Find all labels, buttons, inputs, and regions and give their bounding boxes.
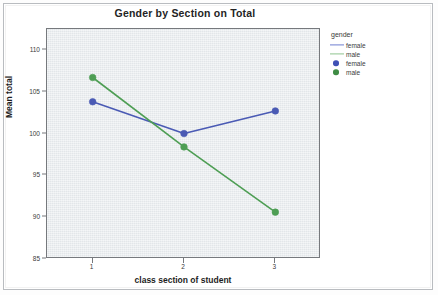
- legend-line-icon: [330, 41, 344, 49]
- y-axis-ticks: 859095100105110: [14, 28, 46, 258]
- y-tick-label: 85: [14, 255, 40, 262]
- plot-panel: [46, 28, 320, 258]
- legend-label: female: [344, 42, 366, 49]
- legend-item-male-line: male: [330, 50, 430, 58]
- data-point-female-2: [181, 130, 188, 137]
- data-point-male-2: [181, 144, 188, 151]
- legend-dot-icon: [330, 68, 344, 76]
- data-point-male-1: [89, 74, 96, 81]
- series-line-female: [93, 102, 276, 134]
- x-tick-label: 2: [173, 263, 193, 270]
- legend: gender femalemalefemalemale: [330, 31, 430, 77]
- legend-title: gender: [330, 31, 430, 38]
- y-tick-label: 95: [14, 171, 40, 178]
- y-tick-label: 90: [14, 213, 40, 220]
- y-tick-label: 110: [14, 45, 40, 52]
- y-axis-title: Mean total: [4, 62, 14, 132]
- legend-label: female: [344, 60, 366, 67]
- legend-label: male: [344, 69, 360, 76]
- legend-item-male-dot: male: [330, 68, 430, 76]
- y-tick-label: 100: [14, 129, 40, 136]
- chart-figure: Gender by Section on Total Mean total 85…: [0, 0, 438, 295]
- legend-item-female-dot: female: [330, 59, 430, 67]
- x-tick-label: 3: [264, 263, 284, 270]
- y-tick-label: 105: [14, 87, 40, 94]
- legend-rows: femalemalefemalemale: [330, 41, 430, 76]
- data-point-male-3: [272, 209, 279, 216]
- plot-series-svg: [47, 29, 321, 259]
- legend-item-female-line: female: [330, 41, 430, 49]
- legend-line-icon: [330, 50, 344, 58]
- x-tick-label: 1: [82, 263, 102, 270]
- x-axis-ticks: 123: [46, 258, 320, 274]
- chart-title: Gender by Section on Total: [40, 7, 330, 19]
- legend-dot-icon: [330, 59, 344, 67]
- legend-label: male: [344, 51, 360, 58]
- x-axis-title: class section of student: [46, 275, 320, 285]
- data-point-female-3: [272, 108, 279, 115]
- data-point-female-1: [89, 98, 96, 105]
